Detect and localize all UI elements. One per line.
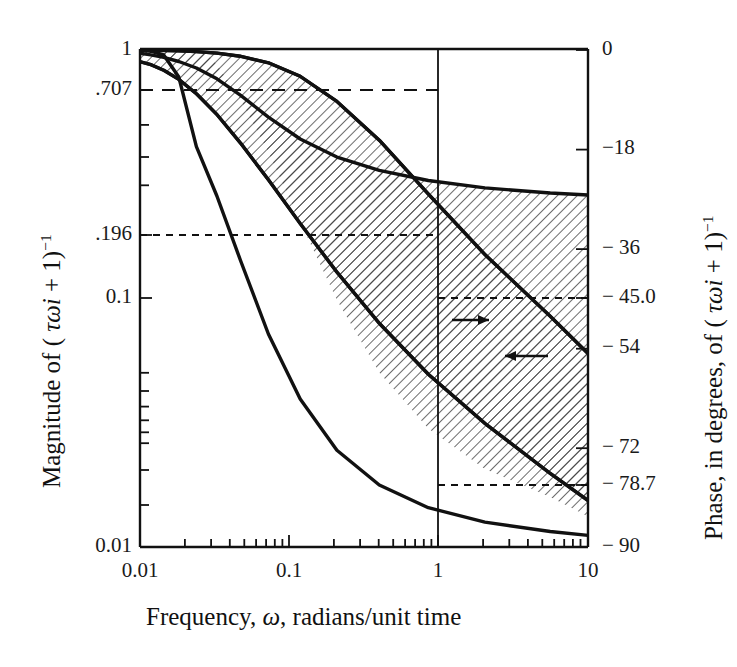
y-right-title-exponent: −1 [699, 216, 716, 233]
y-left-tick-label-196: .196 [58, 223, 132, 244]
x-axis-title: Frequency, ω, radians/unit time [146, 604, 461, 629]
x-tick-label-01: 0.1 [264, 560, 314, 581]
y-right-tick-label-0: 0 [602, 38, 613, 59]
y-left-title-symbol: τωi [38, 298, 65, 332]
x-axis-ticks [140, 535, 588, 547]
y-right-tick-label-72: − 72 [602, 436, 640, 457]
y-right-tick-label-787: − 78.7 [602, 473, 656, 494]
x-axis-title-after: , radians/unit time [280, 603, 461, 630]
x-tick-label-1: 1 [423, 560, 453, 581]
y-right-title-before: Phase, in degrees, of ( [700, 313, 727, 540]
y-left-ticks [140, 50, 152, 547]
y-right-tick-label-54: − 54 [602, 336, 640, 357]
y-right-tick-label-36: − 36 [602, 237, 640, 258]
y-right-tick-label-90: − 90 [602, 535, 640, 556]
bode-plot-figure: 1 .707 .196 0.1 0.01 0 −18 − 36 − 45.0 −… [0, 0, 737, 667]
y-left-title-exponent: −1 [37, 234, 54, 251]
y-right-tick-label-18: −18 [602, 137, 635, 158]
x-tick-label-001: 0.01 [110, 560, 170, 581]
x-axis-title-omega: ω [262, 603, 280, 630]
y-left-tick-label-1: 1 [110, 38, 132, 59]
y-left-title-before: Magnitude of ( [38, 332, 65, 488]
y-right-tick-label-45: − 45.0 [602, 286, 656, 307]
y-right-title-symbol: τωi [700, 279, 727, 313]
y-left-axis-title: Magnitude of ( τωi + 1)−1 [38, 234, 64, 488]
y-left-title-mid: + 1) [38, 251, 65, 298]
x-axis-title-before: Frequency, [146, 603, 262, 630]
y-right-title-mid: + 1) [700, 232, 727, 279]
y-right-axis-title: Phase, in degrees, of ( τωi + 1)−1 [700, 216, 726, 541]
x-tick-label-10: 10 [566, 560, 610, 581]
y-left-tick-label-707: .707 [58, 78, 132, 99]
y-left-tick-label-001: 0.01 [52, 535, 132, 556]
y-left-tick-label-01: 0.1 [68, 286, 132, 307]
